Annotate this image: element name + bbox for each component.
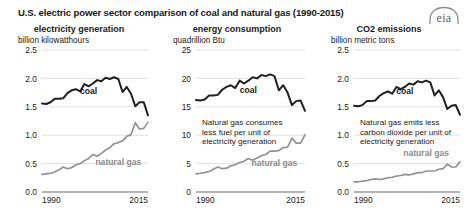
y-axis-tick-label: 0 bbox=[186, 187, 191, 197]
y-axis-tick-label: 1.0 bbox=[25, 130, 37, 140]
panel-1-plot: 0.00.51.01.52.02.519902015coalnatural ga… bbox=[0, 0, 158, 219]
panel-annotation-line: Natural gas emits less bbox=[360, 118, 440, 127]
x-axis-tick-label-end: 2015 bbox=[441, 195, 460, 205]
y-axis-tick-label: 1.5 bbox=[25, 102, 37, 112]
panel-electricity-generation: electricity generation billion kilowatth… bbox=[0, 0, 158, 219]
y-axis-tick-label: 1.5 bbox=[337, 102, 349, 112]
y-axis-tick-label: 0.0 bbox=[337, 187, 349, 197]
x-axis-tick-label-start: 1990 bbox=[196, 195, 215, 205]
y-axis-tick-label: 0.0 bbox=[25, 187, 37, 197]
y-axis-tick-label: 0.5 bbox=[337, 159, 349, 169]
x-axis-tick-label-start: 1990 bbox=[42, 195, 61, 205]
series-label-natural-gas: natural gas bbox=[95, 157, 141, 167]
y-axis-tick-label: 10 bbox=[182, 130, 192, 140]
series-label-coal: coal bbox=[80, 86, 97, 96]
panel-2-plot: 051015202519902015Natural gas consumesle… bbox=[158, 0, 316, 219]
panel-annotation-line: less fuel per unit of bbox=[202, 128, 271, 137]
y-axis-tick-label: 5 bbox=[186, 159, 191, 169]
panel-annotation-line: electricity generation bbox=[360, 137, 434, 146]
series-line-natural-gas bbox=[354, 162, 460, 182]
y-axis-tick-label: 25 bbox=[182, 45, 192, 55]
panel-3-plot: 0.00.51.01.52.02.519902015Natural gas em… bbox=[314, 0, 471, 219]
y-axis-tick-label: 0.5 bbox=[25, 159, 37, 169]
panel-co2-emissions: CO2 emissions billion metric tons 0.00.5… bbox=[314, 0, 471, 219]
panel-energy-consumption: energy consumption quadrillion Btu 05101… bbox=[158, 0, 316, 219]
y-axis-tick-label: 20 bbox=[182, 74, 192, 84]
series-label-coal: coal bbox=[240, 85, 257, 95]
x-axis-tick-label-start: 1990 bbox=[354, 195, 373, 205]
series-label-coal: coal bbox=[396, 86, 413, 96]
series-label-natural-gas: natural gas bbox=[403, 148, 449, 158]
y-axis-tick-label: 2.0 bbox=[25, 74, 37, 84]
y-axis-tick-label: 2.5 bbox=[25, 45, 37, 55]
y-axis-tick-label: 2.5 bbox=[337, 45, 349, 55]
y-axis-tick-label: 15 bbox=[182, 102, 192, 112]
panel-annotation-line: Natural gas consumes bbox=[202, 118, 283, 127]
x-axis-tick-label-end: 2015 bbox=[286, 195, 305, 205]
y-axis-tick-label: 2.0 bbox=[337, 74, 349, 84]
series-label-natural-gas: natural gas bbox=[252, 158, 298, 168]
x-axis-tick-label-end: 2015 bbox=[129, 195, 148, 205]
panel-annotation-line: electricity generation bbox=[202, 137, 276, 146]
panel-annotation-line: carbon dioxide per unit of bbox=[360, 128, 452, 137]
y-axis-tick-label: 1.0 bbox=[337, 130, 349, 140]
eia-comparison-figure: U.S. electric power sector comparison of… bbox=[0, 0, 471, 219]
